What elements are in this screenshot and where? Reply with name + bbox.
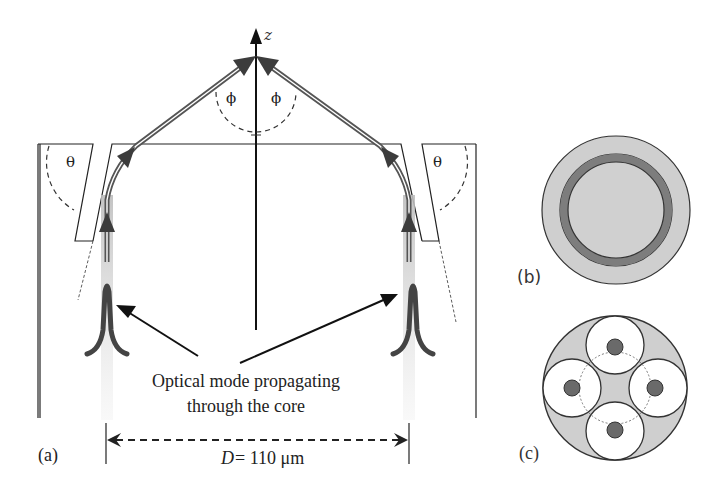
fiber-diagram: z ϕ ϕ θ θ (0, 0, 725, 488)
z-axis-arrowhead (250, 28, 262, 44)
panel-a: z ϕ ϕ θ θ (38, 26, 476, 468)
dimension-symbol: D (220, 448, 234, 468)
panel-c: (c) (519, 316, 687, 464)
core-dot-right (647, 380, 663, 396)
annotation-line-2: through the core (187, 396, 305, 416)
annotation-line-1: Optical mode propagating (152, 371, 340, 391)
right-theta-arc (440, 146, 467, 210)
fiber-center (568, 162, 664, 258)
phi-label-left: ϕ (226, 89, 236, 107)
tip-outline (93, 144, 422, 241)
left-extension-line (78, 241, 93, 300)
theta-label-left: θ (66, 153, 75, 171)
phi-label-right: ϕ (271, 89, 281, 107)
annotation-arrow-left (128, 312, 198, 356)
core-dot-top (607, 339, 623, 355)
core-dot-left (564, 380, 580, 396)
annotation-arrow-right (240, 298, 388, 363)
panel-c-label: (c) (519, 443, 539, 464)
right-extension-line (439, 241, 456, 322)
theta-label-right: θ (433, 153, 442, 171)
panel-a-label: (a) (38, 445, 58, 466)
panel-b-label: (b) (517, 267, 541, 287)
z-axis-label: z (263, 26, 272, 44)
core-dot-bottom (607, 422, 623, 438)
dimension-value: = 110 μm (235, 448, 304, 468)
panel-b: (b) (517, 136, 690, 287)
